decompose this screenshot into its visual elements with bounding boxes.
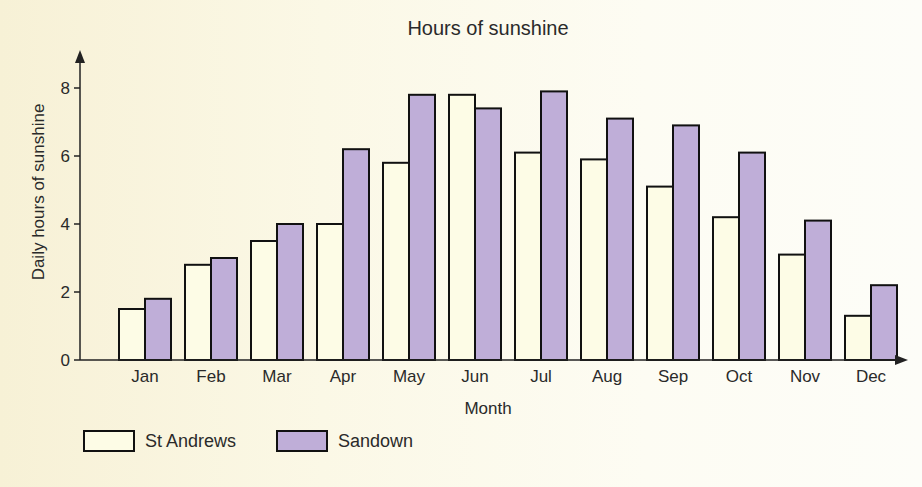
bar-sandown-nov <box>805 221 831 360</box>
x-tick-label: Jul <box>530 367 552 386</box>
bar-sandown-aug <box>607 119 633 360</box>
x-tick-label: Apr <box>330 367 357 386</box>
bar-sandown-feb <box>211 258 237 360</box>
x-tick-label: Jun <box>461 367 488 386</box>
bar-sandown-apr <box>343 149 369 360</box>
x-tick-label: May <box>393 367 426 386</box>
bar-st-andrews-may <box>383 163 409 360</box>
x-axis-ticks: JanFebMarAprMayJunJulAugSepOctNovDec <box>131 367 886 386</box>
bar-st-andrews-oct <box>713 217 739 360</box>
y-tick-label: 0 <box>61 351 70 370</box>
bar-sandown-jul <box>541 91 567 360</box>
x-tick-label: Aug <box>592 367 622 386</box>
bar-sandown-oct <box>739 153 765 360</box>
x-tick-label: Nov <box>790 367 821 386</box>
bar-st-andrews-sep <box>647 187 673 360</box>
legend-label: Sandown <box>338 431 413 452</box>
legend-item-sandown: Sandown <box>276 430 413 452</box>
x-tick-label: Mar <box>262 367 292 386</box>
bar-st-andrews-jan <box>119 309 145 360</box>
legend-label: St Andrews <box>145 431 236 452</box>
legend: St Andrews Sandown <box>83 430 453 452</box>
bar-chart: Hours of sunshine Daily hours of sunshin… <box>0 0 922 487</box>
bar-sandown-may <box>409 95 435 360</box>
x-tick-label: Dec <box>856 367 887 386</box>
x-axis-label: Month <box>464 399 511 418</box>
y-tick-label: 6 <box>61 147 70 166</box>
bar-sandown-mar <box>277 224 303 360</box>
x-tick-label: Oct <box>726 367 753 386</box>
bar-sandown-dec <box>871 285 897 360</box>
chart-title: Hours of sunshine <box>407 17 568 39</box>
x-tick-label: Sep <box>658 367 688 386</box>
bar-st-andrews-apr <box>317 224 343 360</box>
y-tick-label: 2 <box>61 283 70 302</box>
bar-st-andrews-mar <box>251 241 277 360</box>
x-tick-label: Feb <box>196 367 225 386</box>
legend-item-st-andrews: St Andrews <box>83 430 236 452</box>
bars-group <box>119 91 897 360</box>
x-axis-arrow-icon <box>895 355 908 365</box>
bar-st-andrews-nov <box>779 255 805 360</box>
bar-sandown-jan <box>145 299 171 360</box>
x-tick-label: Jan <box>131 367 158 386</box>
y-axis-label: Daily hours of sunshine <box>29 104 48 281</box>
bar-st-andrews-feb <box>185 265 211 360</box>
bar-st-andrews-jul <box>515 153 541 360</box>
bar-st-andrews-jun <box>449 95 475 360</box>
y-tick-label: 8 <box>61 79 70 98</box>
bar-sandown-sep <box>673 125 699 360</box>
legend-swatch-sandown <box>276 430 328 452</box>
y-axis-arrow-icon <box>75 50 85 63</box>
bar-sandown-jun <box>475 108 501 360</box>
bar-st-andrews-dec <box>845 316 871 360</box>
y-axis-ticks: 02468 <box>61 79 80 370</box>
y-tick-label: 4 <box>61 215 70 234</box>
legend-swatch-st-andrews <box>83 430 135 452</box>
bar-st-andrews-aug <box>581 159 607 360</box>
